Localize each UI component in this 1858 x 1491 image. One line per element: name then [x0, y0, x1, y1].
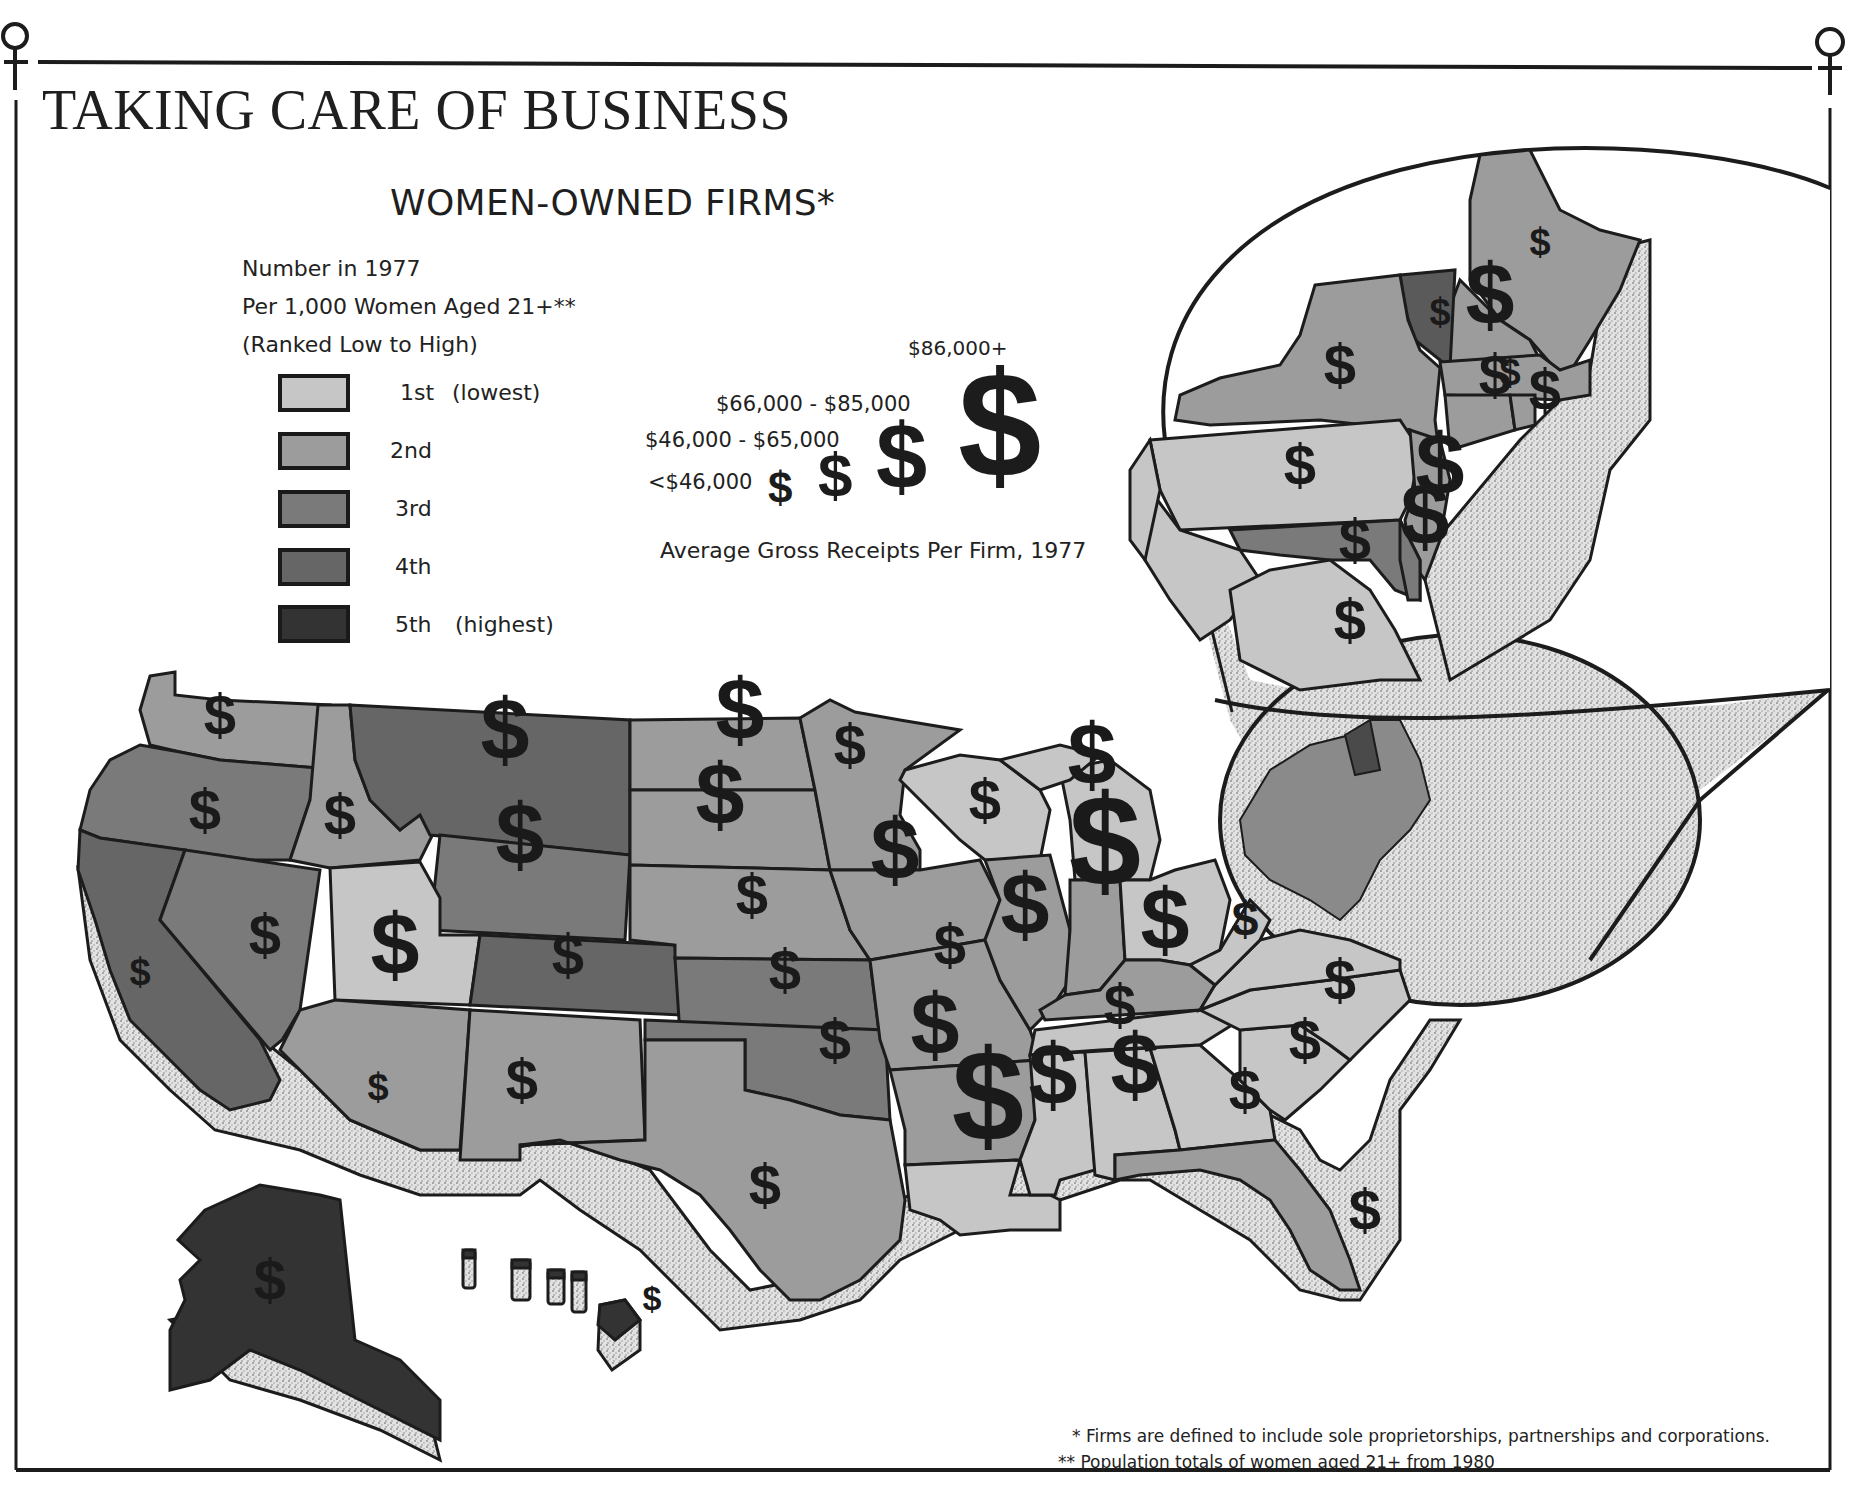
legend-rank-label: 3rd [395, 496, 432, 521]
dollar-icon-VA: $ [1334, 587, 1366, 652]
dollar-icon-NY: $ [1324, 332, 1356, 397]
dollar-icon-large: $ [876, 410, 927, 502]
legend-rank-label: 5th [395, 612, 432, 637]
dollar-icon-NE: $ [736, 862, 768, 927]
map-figure: $ $ $ $ $ $ $ $ $ $ $ $ $ $ $ $ $ $ $ $ … [0, 0, 1858, 1491]
dollar-icon-ID: $ [324, 782, 356, 847]
dollar-icon-OK: $ [819, 1007, 851, 1072]
dollar-icon-LA: $ [952, 1022, 1024, 1168]
dollar-icon-AZ: $ [367, 1066, 388, 1108]
female-symbol-icon [3, 24, 28, 90]
receipts-class-label: $46,000 - $65,000 [645, 428, 840, 452]
dollar-icon-xlarge: $ [958, 350, 1041, 500]
legend-heading-line: (Ranked Low to High) [242, 332, 478, 357]
map-subtitle: WOMEN-OWNED FIRMS* [390, 182, 835, 223]
legend-swatch-2nd [278, 432, 350, 470]
receipts-class-label: <$46,000 [648, 470, 752, 494]
dollar-icon-ME: $ [1529, 221, 1550, 263]
dollar-icon-IA: $ [871, 800, 920, 899]
legend-swatch-3rd [278, 490, 350, 528]
dollar-icon-RI: $ [1499, 351, 1520, 393]
dollar-icon-CT: $ [1529, 357, 1561, 422]
dollar-icon-PA: $ [1284, 432, 1316, 497]
dollar-icon-CO: $ [552, 922, 584, 987]
dollar-icon-MO: $ [934, 912, 966, 977]
dollar-icon-NM: $ [506, 1047, 538, 1112]
dollar-icon-MT: $ [481, 680, 530, 779]
legend-rank-label: 2nd [390, 438, 432, 463]
state-NM [460, 1010, 645, 1160]
dollar-icon-IL: $ [1001, 855, 1050, 954]
legend-heading-line: Number in 1977 [242, 256, 420, 281]
page-title: TAKING CARE OF BUSINESS [42, 78, 791, 142]
dollar-icon-MD: $ [1339, 507, 1371, 572]
legend-swatch-4th [278, 548, 350, 586]
dollar-icon-CA: $ [129, 951, 150, 993]
female-symbol-icon [1817, 29, 1843, 95]
dollar-icon-NV: $ [249, 902, 281, 967]
dollar-icon-DE: $ [1401, 465, 1450, 564]
dollar-icon-MI: $ [1069, 767, 1141, 913]
dollar-icon-NC: $ [1324, 947, 1356, 1012]
dollar-icon-UT: $ [371, 895, 420, 994]
dollar-icon-VT: $ [1429, 291, 1450, 333]
receipts-legend-caption: Average Gross Receipts Per Firm, 1977 [660, 538, 1086, 563]
dollar-icon-HI: $ [643, 1279, 662, 1317]
legend-swatch-5th [278, 605, 350, 643]
dollar-icon-NH: $ [1466, 245, 1515, 344]
footnote-firms: * Firms are defined to include sole prop… [1072, 1426, 1770, 1446]
legend-rank-note: (highest) [455, 612, 554, 637]
legend-rank-label: 4th [395, 554, 432, 579]
legend-rank-label: 1st [400, 380, 434, 405]
dollar-icon-WI: $ [969, 767, 1001, 832]
legend-rank-note: (lowest) [452, 380, 540, 405]
dollar-icon-FL: $ [1349, 1177, 1381, 1242]
dollar-icon-TX: $ [749, 1152, 781, 1217]
dollar-icon-small: $ [768, 466, 792, 510]
dollar-icon-SC: $ [1289, 1007, 1321, 1072]
dollar-icon-MS: $ [1029, 1025, 1078, 1124]
legend-swatch-1st [278, 374, 350, 412]
dollar-icon-AL: $ [1111, 1015, 1160, 1114]
dollar-icon-OH: $ [1232, 892, 1259, 945]
dollar-icon-medium: $ [818, 444, 852, 506]
dollar-icon-SD: $ [696, 745, 745, 844]
dollar-icon-OR: $ [189, 777, 221, 842]
dollar-icon-GA: $ [1229, 1057, 1261, 1122]
dollar-icon-KS: $ [769, 937, 801, 1002]
footnote-population: ** Population totals of women aged 21+ f… [1058, 1452, 1495, 1472]
dollar-icon-MN: $ [834, 712, 866, 777]
dollar-icon-WA: $ [204, 682, 236, 747]
dollar-icon-WY: $ [496, 785, 545, 884]
legend-heading-line: Per 1,000 Women Aged 21+** [242, 294, 576, 319]
dollar-icon-IN: $ [1141, 870, 1190, 969]
dollar-icon-AK: $ [254, 1247, 286, 1312]
state-HI [463, 1250, 640, 1370]
state-AK [170, 1185, 440, 1460]
